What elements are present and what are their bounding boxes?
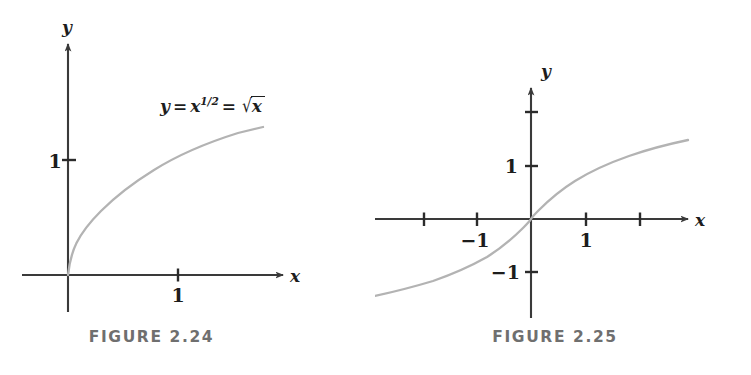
figure-caption-2-24: FIGURE 2.24: [0, 328, 339, 346]
y-axis-label: y: [540, 61, 552, 81]
equation-label-sqrt: y=x1/2=√x: [160, 96, 265, 115]
y-tick-label-1: 1: [505, 155, 518, 177]
figure-page: 1 1 x y y=x1/2=√x FIGURE 2.24: [0, 0, 751, 375]
figure-2-25: −1 1 1 −1 x y y=x1/3=3√x FIGURE 2.25: [375, 0, 751, 375]
x-axis-label: x: [289, 266, 301, 286]
y-tick-label-1: 1: [48, 150, 61, 172]
equation-base: x: [190, 96, 200, 116]
x-tick-label-1: 1: [171, 284, 184, 306]
equation-equals-2: =: [219, 96, 239, 116]
equation-equals-1: =: [170, 96, 190, 116]
equation-exponent: 1/2: [200, 95, 219, 107]
radical-group: √x: [239, 96, 265, 115]
curve-sqrt-x: [68, 127, 263, 275]
radicand: x: [251, 96, 265, 115]
plot-sqrt-x: 1 1 x y: [0, 0, 375, 375]
x-tick-label-neg1: −1: [460, 229, 489, 251]
y-tick-label-neg1: −1: [491, 261, 520, 283]
equation-lhs: y: [160, 96, 170, 116]
plot-cbrt-x: −1 1 1 −1 x y: [375, 0, 751, 375]
x-tick-label-1: 1: [579, 229, 592, 251]
figure-caption-2-25: FIGURE 2.25: [367, 328, 743, 346]
figure-2-24: 1 1 x y y=x1/2=√x FIGURE 2.24: [0, 0, 375, 375]
x-axis-label: x: [694, 210, 706, 230]
y-axis-label: y: [61, 17, 73, 37]
